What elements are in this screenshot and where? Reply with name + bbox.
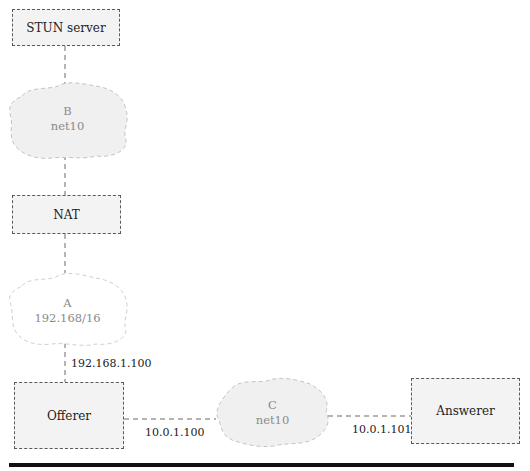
network-a-subnet: 192.168/16 bbox=[20, 311, 115, 326]
offerer-private-address: 192.168.1.100 bbox=[71, 357, 151, 370]
network-a-label: A 192.168/16 bbox=[20, 296, 115, 326]
network-c-label: C net10 bbox=[230, 398, 315, 428]
answerer-label: Answerer bbox=[436, 404, 495, 418]
network-b-label: B net10 bbox=[25, 104, 110, 134]
offerer-label: Offerer bbox=[47, 409, 91, 423]
network-b-name: B bbox=[25, 104, 110, 119]
answerer-node: Answerer bbox=[411, 378, 520, 444]
offerer-net10-address: 10.0.1.100 bbox=[145, 426, 204, 439]
network-c-name: C bbox=[230, 398, 315, 413]
network-c-subnet: net10 bbox=[230, 413, 315, 428]
answerer-net10-address: 10.0.1.101 bbox=[352, 423, 411, 436]
bottom-rule bbox=[9, 463, 514, 467]
nat-label: NAT bbox=[53, 208, 80, 222]
network-a-name: A bbox=[20, 296, 115, 311]
stun-server-label: STUN server bbox=[26, 21, 105, 35]
offerer-node: Offerer bbox=[14, 382, 124, 449]
stun-server-node: STUN server bbox=[12, 9, 120, 46]
network-b-subnet: net10 bbox=[25, 119, 110, 134]
nat-node: NAT bbox=[12, 195, 121, 234]
